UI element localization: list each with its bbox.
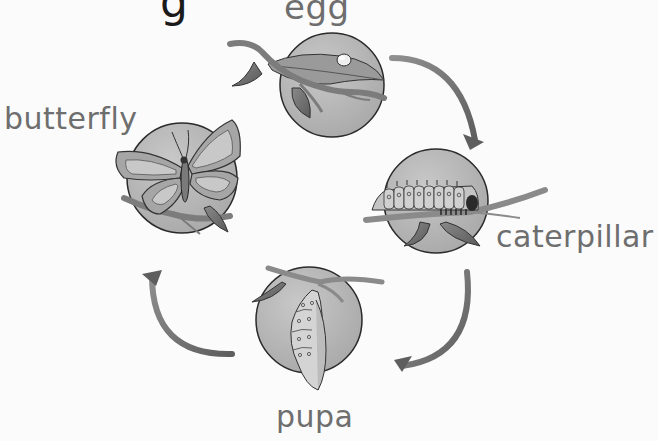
stage-caterpillar bbox=[366, 149, 545, 253]
egg-circle bbox=[280, 33, 384, 137]
stage-pupa bbox=[252, 267, 382, 390]
arrow-caterpillar-to-pupa-icon bbox=[394, 272, 468, 372]
stage-egg bbox=[230, 33, 384, 137]
arrow-pupa-to-butterfly-icon bbox=[142, 270, 232, 354]
stage-butterfly bbox=[116, 120, 240, 234]
arrow-egg-to-caterpillar-icon bbox=[392, 58, 484, 150]
life-cycle-diagram bbox=[0, 0, 658, 441]
egg-icon bbox=[337, 54, 351, 66]
